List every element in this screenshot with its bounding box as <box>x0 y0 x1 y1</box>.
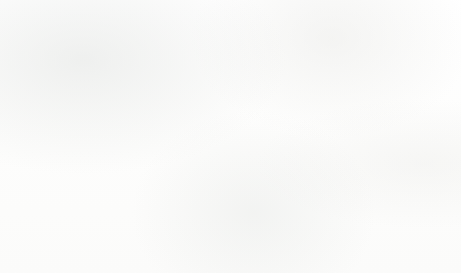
y-axis-tick-20: 20 <box>0 202 28 212</box>
y-axis-tick-80: 80 <box>0 97 28 107</box>
bar-sheen <box>178 60 210 241</box>
x-axis-label-second: Second <box>154 250 234 260</box>
y-axis-tick-100: 100 <box>0 62 28 72</box>
chart-title: Students' levels <box>0 3 461 18</box>
bar-value-fourth: 91 <box>368 69 428 80</box>
bar-second[interactable] <box>178 60 210 241</box>
gridline-120 <box>37 32 448 33</box>
bar-value-second: 104 <box>164 46 224 57</box>
bar-third[interactable] <box>280 96 312 241</box>
bar-value-first: 72 <box>62 102 122 113</box>
bar-fourth[interactable] <box>382 83 414 241</box>
gridline-100 <box>37 67 448 68</box>
plot-area <box>37 32 448 241</box>
x-axis-label-third: Third <box>256 250 336 260</box>
bar-chart: Students' levels 120 100 80 60 40 20 0 7… <box>0 0 461 273</box>
y-axis-tick-40: 40 <box>0 167 28 177</box>
bar-sheen <box>280 96 312 241</box>
x-axis-label-first: First <box>52 250 132 260</box>
y-axis-tick-60: 60 <box>0 132 28 142</box>
bar-sheen <box>76 116 108 241</box>
y-axis-tick-120: 120 <box>0 27 28 37</box>
y-axis-tick-0: 0 <box>0 236 28 246</box>
x-axis-label-fourth: Fourth <box>358 250 438 260</box>
bar-value-third: 83 <box>266 82 326 93</box>
bar-first[interactable] <box>76 116 108 241</box>
bar-sheen <box>382 83 414 241</box>
